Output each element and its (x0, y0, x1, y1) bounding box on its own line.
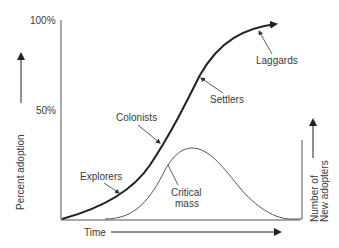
new-adopters-bell-curve (105, 140, 302, 219)
label-colonists: Colonists (116, 112, 157, 123)
pointer-explorers (104, 183, 119, 193)
pointer-laggards (259, 31, 272, 54)
x-axis-label: Time (84, 227, 106, 238)
label-explorers: Explorers (80, 171, 122, 182)
pointer-colonists (138, 125, 160, 143)
y-tick-50: 50% (36, 105, 56, 116)
label-settlers: Settlers (210, 94, 244, 105)
y-tick-100: 100% (30, 15, 56, 26)
y-axis-label: Percent adoption (15, 134, 26, 210)
secondary-axis-label-line2: New adopters (319, 160, 330, 222)
pointer-critical-mass (168, 165, 178, 185)
adoption-diagram: 100% 50% Percent adoption Time Explorers… (0, 0, 339, 248)
label-laggards: Laggards (256, 55, 298, 66)
pointer-settlers (201, 78, 223, 93)
label-critical: Critical (171, 187, 202, 198)
cumulative-adoption-curve (62, 24, 276, 219)
label-mass: mass (175, 198, 199, 209)
